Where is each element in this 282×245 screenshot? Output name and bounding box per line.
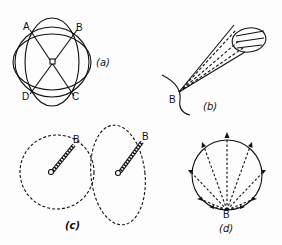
- label-b-B: B: [169, 94, 176, 105]
- label-d-B: B: [223, 209, 230, 220]
- caption-b: (b): [203, 101, 217, 112]
- panel-c: [20, 122, 150, 227]
- label-a-C: C: [72, 91, 79, 102]
- label-a-D: D: [22, 91, 29, 102]
- label-a-A: A: [23, 21, 30, 32]
- label-a-B: B: [76, 22, 83, 33]
- label-c-B2: B: [142, 131, 149, 142]
- figure-svg: A B D C (a) B (b) B B (c) B (d): [0, 0, 282, 245]
- caption-d: (d): [219, 223, 233, 234]
- label-c-B1: B: [73, 134, 80, 145]
- figure-canvas: A B D C (a) B (b) B B (c) B (d): [0, 0, 282, 245]
- caption-a: (a): [96, 57, 110, 68]
- panel-c-rods: [49, 142, 143, 176]
- caption-c: (c): [65, 220, 80, 231]
- panel-d: [188, 132, 266, 210]
- labels: A B D C (a) B (b) B B (c) B (d): [22, 21, 233, 234]
